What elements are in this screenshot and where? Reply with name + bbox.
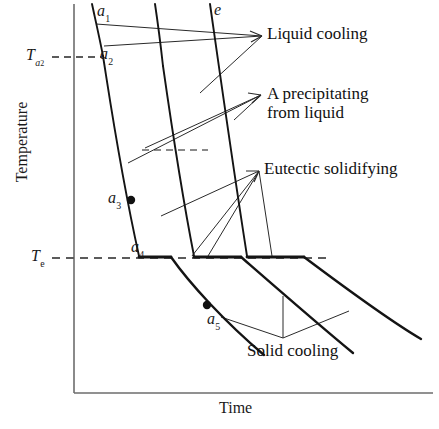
leader-eut-3 [208,171,259,256]
point-label-a4: a4 [131,238,144,258]
leader-liquid-1 [96,24,262,36]
leader-precip-1 [128,95,261,163]
point-label-a3: a3 [108,189,121,209]
leader-liquid-3 [200,36,262,93]
point-label-a5: a5 [207,310,220,330]
leader-solid-1 [221,317,283,338]
y-tick-ta2-sub: a2 [35,57,44,68]
plot-canvas [0,0,439,429]
leader-lines-liquid-cooling [96,24,262,93]
leader-solid-3 [283,311,349,338]
leader-lines-solid-cooling [221,296,349,338]
y-tick-te-main: T [31,247,40,264]
annotation-liquid-cooling: Liquid cooling [267,24,368,43]
leader-liquid-2 [104,36,262,46]
leader-eut-2 [192,171,259,256]
y-tick-label-ta2: Ta2 [26,46,44,67]
annotation-solid-cooling: Solid cooling [247,341,338,360]
annotation-a-precipitating-line1: A precipitating [267,84,369,103]
annotation-a-precipitating: A precipitating from liquid [267,84,369,122]
point-label-a1: a1 [97,2,110,22]
curve-a-precipitation-segment [103,56,139,256]
curve-e-liquid-segment [210,4,247,256]
point-label-a2: a2 [100,45,113,65]
y-axis-title: Temperature [13,77,31,207]
x-axis-title: Time [219,399,252,417]
curve-middle-liquid-segment [155,4,163,66]
marker-a3 [127,196,135,204]
marker-a5 [203,301,211,309]
curve-middle-solid-segment [241,257,353,353]
y-tick-te-sub: e [40,258,44,269]
leader-lines-eutectic [161,171,272,256]
curve-middle-precipitation-segment [163,66,194,256]
point-label-e: e [214,1,221,19]
annotation-eutectic-solidifying: Eutectic solidifying [264,159,398,178]
leader-lines-precipitating [128,93,261,163]
y-tick-label-te: Te [31,247,44,267]
curve-a-hypoeutectic [92,4,264,355]
leader-eut-1 [161,171,259,216]
leader-precip-2 [145,95,261,148]
cooling-curve-figure: Ta2 Te Temperature Time a1 a2 a3 a4 a5 e… [0,0,439,429]
annotation-a-precipitating-line2: from liquid [267,103,369,122]
leader-eut-4 [259,171,272,256]
y-tick-ta2-main: T [26,46,35,63]
